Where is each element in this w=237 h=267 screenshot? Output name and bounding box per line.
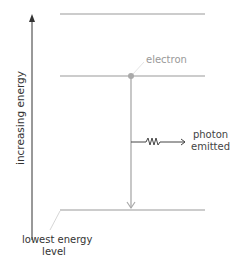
electron-leader-line [133, 62, 144, 74]
electron-dot [128, 73, 134, 79]
photon-label: photon emitted [191, 129, 230, 153]
lowest-label-line1: lowest energy [22, 234, 86, 246]
lowest-energy-label: lowest energy level [22, 234, 86, 258]
lowest-level-leader-line [50, 211, 60, 230]
photon-label-line1: photon [191, 129, 230, 141]
energy-axis-arrow [29, 14, 35, 240]
lowest-label-line2: level [22, 246, 86, 258]
photon-wave-icon [131, 138, 185, 145]
electron-label: electron [146, 54, 187, 66]
energy-axis-label: increasing energy [14, 71, 26, 165]
photon-label-line2: emitted [191, 141, 230, 153]
